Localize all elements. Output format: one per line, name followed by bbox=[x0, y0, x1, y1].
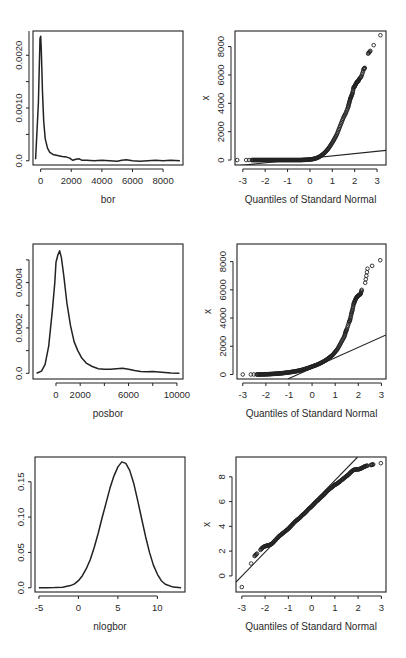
x-tick-label: 2 bbox=[355, 602, 360, 613]
y-tick-label: 0.0010 bbox=[13, 93, 24, 122]
qq-point bbox=[379, 461, 383, 465]
qq-point bbox=[235, 158, 239, 162]
x-tick-label: 10000 bbox=[164, 389, 190, 400]
plot-panel-density-nlogbor: -50510nlogbor0.00.050.100.15 bbox=[15, 457, 185, 632]
y-tick-label: 0.0004 bbox=[13, 268, 24, 297]
y-tick-label: 2000 bbox=[215, 121, 226, 142]
x-tick-label: 0 bbox=[76, 602, 81, 613]
plot-data bbox=[241, 258, 386, 379]
y-tick-label: 2 bbox=[216, 548, 227, 553]
x-tick-label: 5 bbox=[115, 602, 120, 613]
y-tick-label: 2000 bbox=[217, 336, 228, 357]
qq-point bbox=[379, 33, 383, 37]
qq-point bbox=[363, 281, 367, 285]
y-tick-label: 4000 bbox=[217, 307, 228, 328]
x-tick-label: -2 bbox=[262, 389, 270, 400]
y-tick-label: 0.05 bbox=[15, 543, 26, 562]
x-axis-label: posbor bbox=[93, 408, 124, 419]
density-curve bbox=[39, 462, 181, 588]
x-axis-label: nlogbor bbox=[93, 621, 127, 632]
plot-data bbox=[39, 462, 181, 588]
x-tick-label: 1 bbox=[332, 602, 337, 613]
plot-panel-density-posbor: 02000600010000posbor0.00.00020.0004 bbox=[13, 244, 190, 419]
y-tick-label: 6000 bbox=[215, 64, 226, 85]
y-tick-label: 0.15 bbox=[15, 472, 26, 491]
y-tick-label: 0 bbox=[216, 573, 227, 578]
x-tick-label: -1 bbox=[284, 602, 292, 613]
x-tick-label: -5 bbox=[35, 602, 43, 613]
x-axis-label: Quantiles of Standard Normal bbox=[245, 621, 377, 632]
x-tick-label: 3 bbox=[379, 602, 384, 613]
x-tick-label: 3 bbox=[379, 389, 384, 400]
plot-panel-qq-bor: -3-2-10123Quantiles of Standard Normal02… bbox=[200, 31, 386, 205]
x-tick-label: 1 bbox=[333, 389, 338, 400]
x-tick-label: 0 bbox=[309, 602, 314, 613]
x-tick-label: 1 bbox=[330, 175, 335, 186]
x-tick-label: 8000 bbox=[153, 175, 174, 186]
x-tick-label: -3 bbox=[239, 389, 247, 400]
qq-point bbox=[370, 264, 374, 268]
density-curve bbox=[36, 36, 180, 161]
x-axis-label: bor bbox=[101, 194, 116, 205]
x-tick-label: 0 bbox=[309, 389, 314, 400]
x-tick-label: 0 bbox=[307, 175, 312, 186]
x-tick-label: 10 bbox=[152, 602, 163, 613]
y-axis-label: x bbox=[200, 96, 211, 101]
plot-frame bbox=[33, 31, 183, 165]
y-tick-label: 0.0 bbox=[13, 367, 24, 380]
y-tick-label: 0.0002 bbox=[13, 313, 24, 342]
y-axis-label: x bbox=[201, 522, 212, 527]
y-tick-label: 0.0 bbox=[15, 581, 26, 594]
y-tick-label: 4000 bbox=[215, 93, 226, 114]
qq-point bbox=[364, 277, 368, 281]
reference-line bbox=[288, 335, 386, 379]
y-tick-label: 6 bbox=[216, 499, 227, 504]
x-tick-label: 6000 bbox=[122, 175, 143, 186]
x-tick-label: -3 bbox=[238, 602, 246, 613]
plot-panel-qq-posbor: -3-2-10123Quantiles of Standard Normal02… bbox=[202, 244, 386, 419]
plot-data bbox=[36, 36, 180, 161]
x-tick-label: 2 bbox=[356, 389, 361, 400]
x-tick-label: 0 bbox=[38, 175, 43, 186]
x-tick-label: 6000 bbox=[118, 389, 139, 400]
plot-data bbox=[37, 251, 180, 373]
qq-point bbox=[378, 258, 382, 262]
y-tick-label: 6000 bbox=[217, 279, 228, 300]
plot-frame bbox=[236, 457, 386, 592]
x-tick-label: -1 bbox=[283, 175, 291, 186]
qq-point bbox=[372, 43, 376, 47]
plot-data bbox=[235, 33, 386, 166]
y-tick-label: 0.0020 bbox=[13, 41, 24, 70]
y-tick-label: 0.0 bbox=[13, 154, 24, 167]
x-tick-label: 0 bbox=[53, 389, 58, 400]
x-tick-label: -2 bbox=[261, 175, 269, 186]
plot-data bbox=[236, 457, 383, 589]
plot-frame bbox=[35, 457, 185, 592]
y-tick-label: 0.10 bbox=[15, 508, 26, 527]
plot-panel-qq-nlogbor: -3-2-10123Quantiles of Standard Normal02… bbox=[201, 457, 386, 632]
x-axis-label: Quantiles of Standard Normal bbox=[246, 408, 378, 419]
plot-panel-density-bor: 02000400060008000bor0.00.00100.0020 bbox=[13, 31, 183, 205]
x-tick-label: 4000 bbox=[91, 175, 112, 186]
x-tick-label: -2 bbox=[261, 602, 269, 613]
x-tick-label: -3 bbox=[239, 175, 247, 186]
qq-point bbox=[249, 562, 253, 566]
x-axis-label: Quantiles of Standard Normal bbox=[245, 194, 377, 205]
qq-point bbox=[241, 373, 245, 377]
x-tick-label: -1 bbox=[285, 389, 293, 400]
y-tick-label: 8000 bbox=[217, 251, 228, 272]
density-curve bbox=[37, 251, 180, 373]
qq-point bbox=[365, 270, 369, 274]
figure-canvas: 02000400060008000bor0.00.00100.0020-3-2-… bbox=[0, 0, 406, 658]
x-tick-label: 2 bbox=[352, 175, 357, 186]
x-tick-label: 3 bbox=[374, 175, 379, 186]
x-tick-label: 2000 bbox=[61, 175, 82, 186]
y-axis-label: x bbox=[202, 309, 213, 314]
qq-point bbox=[365, 274, 369, 278]
plot-frame bbox=[235, 31, 386, 165]
qq-point bbox=[240, 585, 244, 589]
y-tick-label: 4 bbox=[216, 524, 227, 529]
y-tick-label: 8 bbox=[216, 474, 227, 479]
y-tick-label: 0 bbox=[215, 157, 226, 162]
y-tick-label: 0 bbox=[217, 372, 228, 377]
